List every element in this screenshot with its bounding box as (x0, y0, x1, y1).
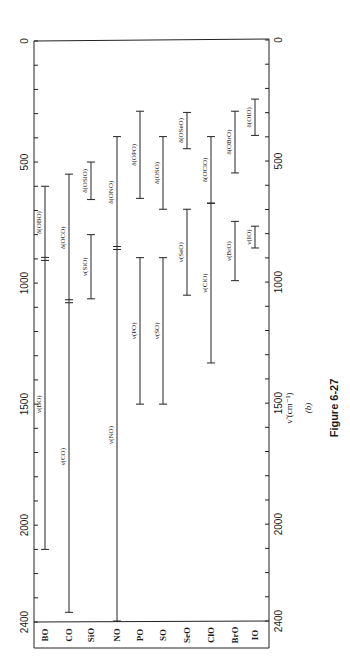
category-label-clo: ClO (206, 627, 216, 643)
right-tick-label: 2000 (273, 513, 284, 536)
right-tick-label: 500 (273, 152, 284, 169)
right-tick-label: 2400 (273, 609, 284, 632)
bar-label: ν(PO) (130, 322, 138, 339)
bar-group-bro: δ(OBrO)ν(BrO) (225, 111, 239, 280)
bar-label: δ(OIO) (245, 106, 253, 127)
left-tick-label: 1500 (19, 393, 30, 416)
bar-label: δ(OClO) (201, 157, 209, 182)
figure-chart: 0050050010001000150015002000200024002400… (0, 0, 350, 667)
bar-label: ν(NO) (107, 425, 115, 444)
category-label-no: NO (112, 628, 122, 642)
bar-group-seo: δ(OSeO)ν(SeO) (177, 112, 191, 295)
category-label-sio: SiO (86, 628, 96, 643)
category-label-so: SO (158, 629, 168, 641)
bar-group-sio: δ(OSiO)ν(SiO) (81, 162, 95, 299)
bar-group-no: δ(ONO)ν(NO) (107, 137, 121, 622)
left-tick-label: 1000 (19, 272, 30, 295)
range-bars: δ(OBO)ν(BO)δ(OCO)ν(CO)δ(OSiO)ν(SiO)δ(ONO… (35, 99, 259, 622)
bar-label: ν(BrO) (225, 240, 233, 261)
bar-group-clo: δ(OClO)ν(ClO) (201, 137, 215, 363)
bar-group-so: δ(OSO)ν(SO) (153, 137, 167, 405)
bar-group-bo: δ(OBO)ν(BO) (35, 186, 49, 549)
left-tick-label: 2400 (19, 610, 30, 633)
bar-label: ν(ClO) (201, 273, 209, 293)
bar-label: ν(CO) (59, 447, 67, 465)
category-label-po: PO (135, 629, 145, 642)
bar-label: ν(SO) (153, 322, 161, 339)
bar-label: δ(OSeO) (177, 117, 185, 143)
bar-label: δ(OPO) (130, 143, 138, 166)
category-label-bro: BrO (230, 627, 240, 644)
category-label-bo: BO (40, 628, 50, 641)
bar-group-io: δ(OIO)ν(IO) (245, 99, 259, 248)
category-label-io: IO (250, 630, 260, 641)
bar-group-po: δ(OPO)ν(PO) (130, 111, 144, 404)
figure-caption: Figure 6-27 (328, 379, 340, 438)
panel-label: (b) (303, 403, 313, 414)
bar-label: δ(ONO) (107, 180, 115, 204)
bar-group-co: δ(OCO)ν(CO) (59, 174, 73, 612)
bar-label: δ(OBrO) (225, 129, 233, 155)
category-labels: BOCOSiONOPOSOSeOClOBrOIO (40, 627, 260, 644)
bar-label: ν(SeO) (177, 242, 185, 263)
left-tick-label: 500 (19, 153, 30, 170)
captions: ν̃ (cm⁻¹) (b) Figure 6-27 (284, 379, 340, 438)
bar-label: δ(OCO) (59, 226, 67, 249)
category-label-co: CO (64, 628, 74, 642)
bar-label: δ(OSiO) (81, 168, 89, 193)
left-tick-label: 2000 (19, 514, 30, 537)
category-label-seo: SeO (182, 627, 192, 643)
bar-label: ν(SiO) (81, 257, 89, 276)
bar-label: ν(BO) (35, 395, 43, 413)
bar-label: δ(OSO) (153, 161, 161, 184)
bar-label: ν(IO) (245, 229, 253, 245)
right-tick-label: 0 (273, 37, 284, 43)
left-tick-label: 0 (19, 38, 30, 44)
right-tick-label: 1000 (273, 271, 284, 294)
right-tick-label: 1500 (273, 392, 284, 415)
bar-label: δ(OBO) (35, 211, 43, 234)
axis-title: ν̃ (cm⁻¹) (284, 392, 294, 423)
